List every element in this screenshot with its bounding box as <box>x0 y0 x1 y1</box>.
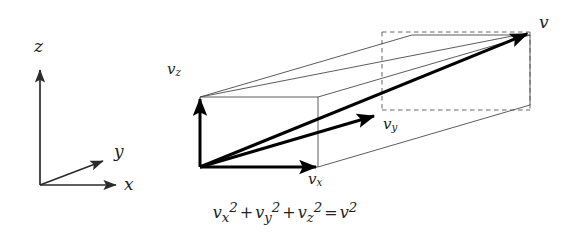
vy-label-sub: y <box>391 122 397 133</box>
eq-plus-2: + <box>280 203 297 222</box>
equation-term-vy: vy2 <box>255 203 280 222</box>
equation-term-vx: vx2 <box>213 203 238 222</box>
y-axis-label: y <box>114 143 124 160</box>
x-axis-label: x <box>124 176 134 193</box>
vector-components-diagram: z y x vz vx vy v vx2+vy2+vz2=v2 <box>0 0 570 244</box>
guide-origin-to-tip <box>200 33 528 97</box>
box-bottom-back-edge <box>318 105 530 167</box>
coordinate-axes <box>40 70 116 185</box>
equation-term-v: v2 <box>340 203 358 222</box>
vz-component-label: vz <box>167 62 181 78</box>
eq-t2-sub: y <box>264 211 272 226</box>
eq-t4-sup: 2 <box>349 200 357 215</box>
eq-equals: = <box>322 203 339 222</box>
vx-component-label: vx <box>308 172 322 188</box>
eq-t3-base: v <box>298 203 307 222</box>
eq-t2-base: v <box>255 203 264 222</box>
vz-label-sub: z <box>175 67 180 78</box>
component-vectors <box>200 34 527 167</box>
vx-label-sub: x <box>316 177 322 188</box>
eq-t3-sub: z <box>307 211 314 226</box>
v-resultant-label: v <box>539 14 549 31</box>
eq-t1-base: v <box>213 203 222 222</box>
equation-term-vz: vz2 <box>298 203 323 222</box>
v-resultant-vector-arrow <box>200 34 527 167</box>
eq-t1-sup: 2 <box>229 200 237 215</box>
y-axis-line <box>40 161 103 185</box>
box-front-face <box>200 97 318 167</box>
caption-equation: vx2+vy2+vz2=v2 <box>0 200 570 226</box>
box-dashed-edges <box>382 32 530 110</box>
z-axis-label: z <box>34 38 43 55</box>
eq-t4-base: v <box>340 203 349 222</box>
eq-t3-sup: 2 <box>314 200 322 215</box>
vy-vector-arrow <box>200 116 374 167</box>
vy-component-label: vy <box>383 117 397 133</box>
eq-plus-1: + <box>238 203 255 222</box>
